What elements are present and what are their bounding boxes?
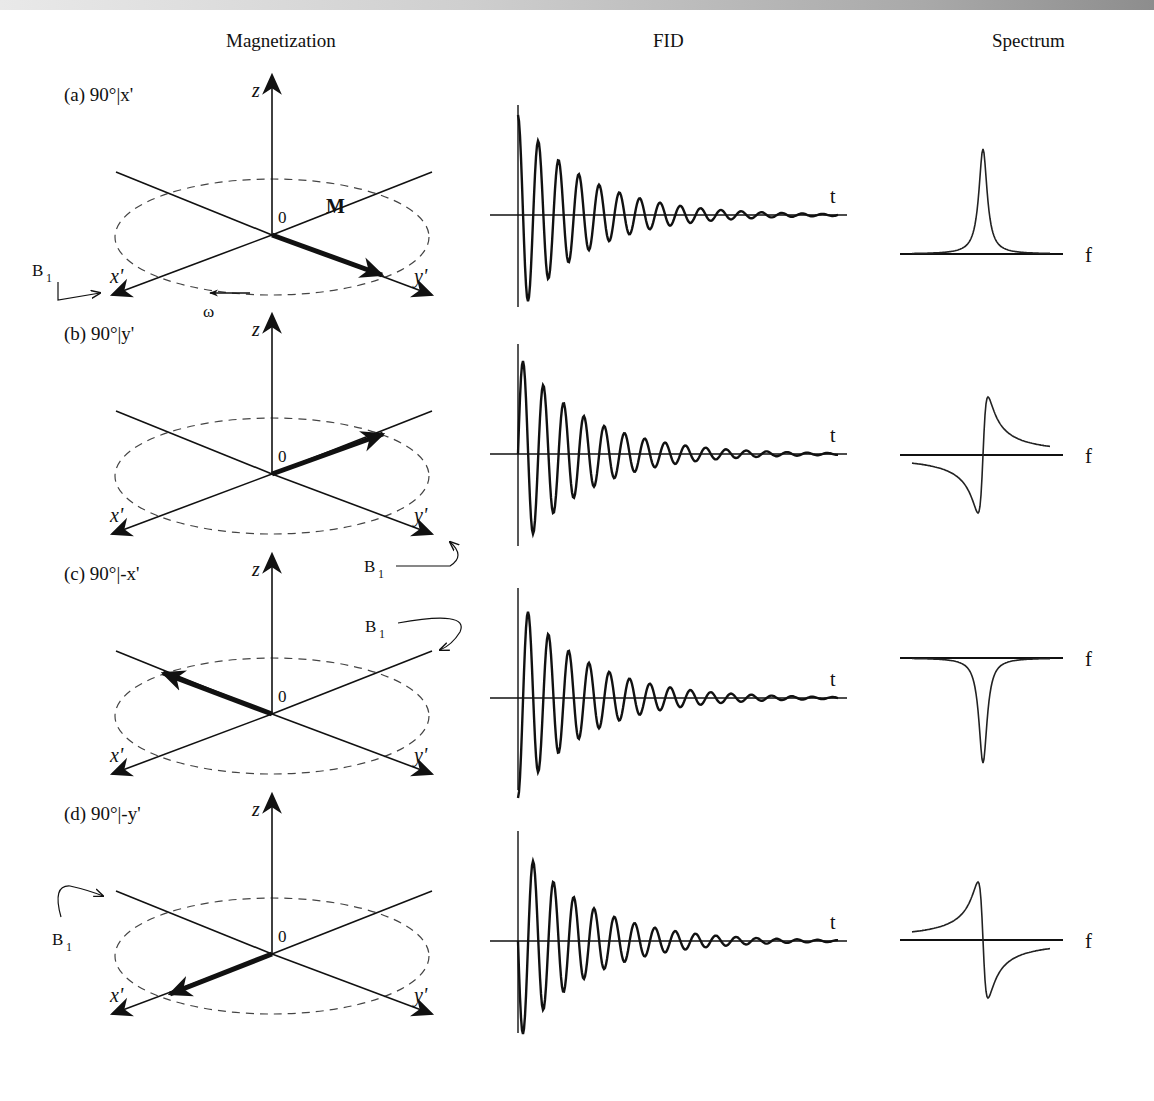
row-label: (d) 90°|-y' — [64, 803, 141, 825]
b1-arrow — [58, 886, 103, 917]
neg-x-axis — [272, 651, 432, 714]
b1-label: B — [364, 557, 375, 576]
f-label: f — [1085, 929, 1092, 953]
row-label: (b) 90°|y' — [64, 323, 134, 345]
b1-subscript: 1 — [46, 271, 52, 285]
row-c: (c) 90°|-x'zx'y'0B1tf — [64, 554, 1092, 798]
row-d: (d) 90°|-y'zx'y'0B1tf — [52, 794, 1092, 1034]
fid-curve — [518, 115, 838, 301]
m-label: M — [326, 195, 345, 217]
y-prime-label: y' — [412, 744, 428, 767]
f-label: f — [1085, 243, 1092, 267]
origin-label: 0 — [278, 927, 287, 946]
magnetization-vector — [170, 954, 272, 994]
fid-curve — [518, 612, 838, 798]
row-a: (a) 90°|x'zx'y'0B1Mωtf — [32, 75, 1092, 321]
y-prime-axis — [272, 474, 432, 534]
omega-label: ω — [203, 302, 214, 321]
f-label: f — [1085, 444, 1092, 468]
t-label: t — [830, 668, 836, 690]
y-prime-label: y' — [412, 265, 428, 288]
f-label: f — [1085, 647, 1092, 671]
spectrum-curve — [912, 659, 1050, 764]
magnetization-vector — [272, 235, 382, 275]
y-prime-axis — [272, 954, 432, 1014]
origin-label: 0 — [278, 447, 287, 466]
fid-curve — [518, 861, 838, 1034]
b1-label: B — [365, 617, 376, 636]
x-prime-axis — [112, 474, 272, 534]
neg-x-axis — [272, 172, 432, 235]
x-prime-label: x' — [109, 744, 124, 766]
fid-curve — [518, 361, 838, 534]
row-label: (c) 90°|-x' — [64, 563, 140, 585]
row-b: (b) 90°|y'zx'y'0B1tf — [64, 314, 1092, 581]
b1-subscript: 1 — [66, 940, 72, 954]
x-prime-label: x' — [109, 504, 124, 526]
neg-y-axis — [116, 411, 272, 474]
origin-label: 0 — [278, 208, 287, 227]
z-axis-label: z — [251, 79, 260, 101]
b1-label: B — [52, 930, 63, 949]
magnetization-vector — [163, 673, 272, 714]
neg-x-axis — [272, 891, 432, 954]
magnetization-vector — [272, 434, 383, 474]
t-label: t — [830, 185, 836, 207]
b1-arrow — [396, 542, 458, 566]
row-label: (a) 90°|x' — [64, 84, 133, 106]
x-prime-label: x' — [109, 984, 124, 1006]
x-prime-axis — [112, 714, 272, 774]
t-label: t — [830, 424, 836, 446]
x-prime-label: x' — [109, 265, 124, 287]
z-axis-label: z — [251, 798, 260, 820]
neg-y-axis — [116, 891, 272, 954]
b1-arrow — [398, 618, 461, 650]
b1-subscript: 1 — [379, 627, 385, 641]
z-axis-label: z — [251, 558, 260, 580]
y-prime-axis — [272, 714, 432, 774]
b1-subscript: 1 — [378, 567, 384, 581]
nmr-phase-figure: (a) 90°|x'zx'y'0B1Mωtf(b) 90°|y'zx'y'0B1… — [0, 0, 1154, 1101]
spectrum-curve — [912, 149, 1050, 254]
t-label: t — [830, 911, 836, 933]
x-prime-axis — [112, 235, 272, 295]
origin-label: 0 — [278, 687, 287, 706]
z-axis-label: z — [251, 318, 260, 340]
y-prime-label: y' — [412, 504, 428, 527]
b1-label: B — [32, 261, 43, 280]
y-prime-label: y' — [412, 984, 428, 1007]
b1-arrow — [58, 282, 100, 300]
neg-y-axis — [116, 172, 272, 235]
